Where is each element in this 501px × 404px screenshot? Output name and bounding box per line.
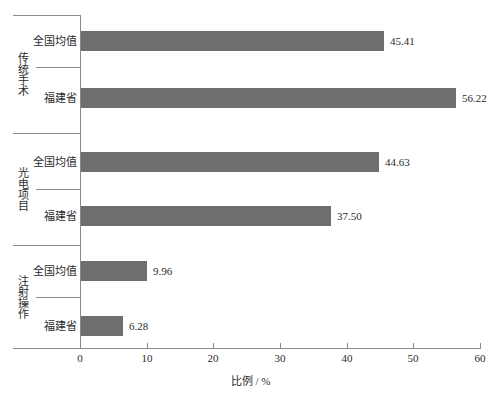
x-tick-50 bbox=[413, 343, 414, 349]
bar-value-label: 37.50 bbox=[337, 206, 362, 226]
bar-category-label: 全国均值 bbox=[33, 152, 77, 172]
x-tick-label: 30 bbox=[260, 352, 300, 364]
bar-traditional-national[interactable] bbox=[81, 31, 384, 51]
bar-category-label: 福建省 bbox=[44, 206, 77, 226]
x-tick-30 bbox=[280, 343, 281, 349]
bar-value-label: 56.22 bbox=[462, 88, 487, 108]
x-tick-label: 0 bbox=[60, 352, 100, 364]
x-tick-label: 60 bbox=[460, 352, 500, 364]
x-axis-title: 比例 / % bbox=[0, 372, 501, 388]
bar-chart: 传统手术 光电项目 注射操作 全国均值 45.41 福建省 56.22 全国均值… bbox=[0, 0, 501, 404]
bar-photoelectric-fujian[interactable] bbox=[81, 206, 331, 226]
x-tick-10 bbox=[147, 343, 148, 349]
x-axis-end-tick bbox=[480, 343, 481, 349]
group-label-injection: 注射操作 bbox=[13, 245, 33, 348]
x-tick-0 bbox=[80, 343, 81, 349]
minor-separator-2 bbox=[36, 297, 81, 298]
bar-value-label: 9.96 bbox=[153, 261, 172, 281]
bar-value-label: 6.28 bbox=[129, 316, 148, 336]
x-tick-40 bbox=[347, 343, 348, 349]
bar-category-label: 全国均值 bbox=[33, 31, 77, 51]
bar-category-label: 福建省 bbox=[44, 88, 77, 108]
minor-separator-1 bbox=[36, 189, 81, 190]
x-tick-label: 10 bbox=[127, 352, 167, 364]
bar-injection-national[interactable] bbox=[81, 261, 147, 281]
y-axis-line bbox=[80, 15, 81, 348]
x-axis-line bbox=[13, 348, 481, 349]
group-label-photoelectric: 光电项目 bbox=[13, 133, 33, 245]
bar-traditional-fujian[interactable] bbox=[81, 88, 456, 108]
bar-value-label: 45.41 bbox=[390, 31, 415, 51]
bar-value-label: 44.63 bbox=[385, 152, 410, 172]
bar-category-label: 全国均值 bbox=[33, 261, 77, 281]
x-tick-20 bbox=[213, 343, 214, 349]
group-separator-bottom bbox=[13, 348, 81, 349]
minor-separator-0 bbox=[36, 67, 81, 68]
bar-injection-fujian[interactable] bbox=[81, 316, 123, 336]
group-label-traditional-surgery: 传统手术 bbox=[13, 15, 33, 133]
x-tick-label: 20 bbox=[193, 352, 233, 364]
x-tick-label: 50 bbox=[393, 352, 433, 364]
x-tick-label: 40 bbox=[327, 352, 367, 364]
bar-photoelectric-national[interactable] bbox=[81, 152, 379, 172]
bar-category-label: 福建省 bbox=[44, 316, 77, 336]
